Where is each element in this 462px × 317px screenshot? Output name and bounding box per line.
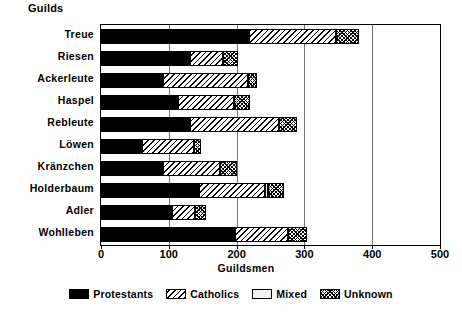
x-tick-label: 400: [363, 248, 381, 260]
legend-label: Catholics: [190, 288, 239, 300]
y-axis-label: Haspel: [0, 94, 94, 106]
bar-segment-catholics: [249, 29, 336, 44]
bar-segment-unknown: [248, 73, 257, 88]
bar-segment-unknown: [336, 29, 360, 44]
bar-row: [101, 29, 359, 44]
bar-row: [101, 205, 206, 220]
bar-row: [101, 227, 307, 242]
y-axis-label: Löwen: [0, 138, 94, 150]
bar-segment-protestants: [101, 73, 163, 88]
legend-item: Catholics: [166, 288, 239, 300]
chart-title: Guilds: [28, 2, 63, 14]
x-tick-label: 100: [160, 248, 178, 260]
solid-black-swatch: [69, 289, 89, 299]
light-solid-swatch: [252, 289, 272, 299]
legend-item: Protestants: [69, 288, 153, 300]
bar-segment-unknown: [194, 139, 201, 154]
bar-segment-catholics: [190, 51, 223, 66]
bar-segment-unknown: [279, 117, 297, 132]
y-axis-category-labels: TreueRiesenAckerleuteHaspelRebleuteLöwen…: [0, 24, 94, 246]
bar-row: [101, 139, 201, 154]
bar-segment-catholics: [163, 73, 248, 88]
bar-segment-catholics: [190, 117, 279, 132]
bar-segment-protestants: [101, 205, 172, 220]
x-axis-tick-labels: 0100200300400500: [0, 248, 462, 262]
bar-segment-unknown: [195, 205, 206, 220]
bar-segment-catholics: [142, 139, 194, 154]
bar-segment-protestants: [101, 51, 190, 66]
y-axis-label: Treue: [0, 28, 94, 40]
bar-segment-catholics: [199, 183, 265, 198]
bar-row: [101, 183, 284, 198]
legend-label: Protestants: [93, 288, 153, 300]
diagonal-hatch-swatch: [166, 289, 186, 299]
y-axis-label: Wohlleben: [0, 226, 94, 238]
bar-segment-protestants: [101, 117, 190, 132]
bar-row: [101, 95, 250, 110]
bar-segment-protestants: [101, 183, 199, 198]
cross-hatch-swatch: [320, 289, 340, 299]
bar-segment-catholics: [235, 227, 288, 242]
y-axis-label: Riesen: [0, 50, 94, 62]
legend-label: Mixed: [276, 288, 307, 300]
x-tick-label: 200: [227, 248, 245, 260]
bar-segment-unknown: [234, 95, 250, 110]
bar-row: [101, 73, 257, 88]
y-axis-label: Kränzchen: [0, 160, 94, 172]
chart-legend: ProtestantsCatholicsMixedUnknown: [0, 288, 462, 300]
x-tick-label: 0: [98, 248, 104, 260]
bar-segment-unknown: [223, 51, 238, 66]
y-axis-label: Rebleute: [0, 116, 94, 128]
x-tick-label: 500: [431, 248, 449, 260]
bar-segment-unknown: [288, 227, 307, 242]
y-axis-label: Adler: [0, 204, 94, 216]
bar-segment-protestants: [101, 95, 178, 110]
bar-segment-protestants: [101, 139, 142, 154]
legend-label: Unknown: [344, 288, 393, 300]
x-tick-label: 300: [295, 248, 313, 260]
legend-item: Mixed: [252, 288, 307, 300]
x-axis-title-text: Guildsmen: [218, 262, 275, 274]
bar-row: [101, 51, 238, 66]
y-axis-label: Holderbaum: [0, 182, 94, 194]
bar-row: [101, 161, 237, 176]
bar-segment-catholics: [178, 95, 234, 110]
bar-segment-catholics: [172, 205, 196, 220]
stacked-bar-chart: Guilds TreueRiesenAckerleuteHaspelRebleu…: [0, 0, 462, 317]
legend-item: Unknown: [320, 288, 393, 300]
x-axis-title: Guildsmen: [0, 262, 462, 274]
bar-segment-unknown: [268, 183, 284, 198]
bar-segment-protestants: [101, 161, 163, 176]
bar-segment-unknown: [220, 161, 237, 176]
bar-segment-protestants: [101, 29, 249, 44]
y-axis-label: Ackerleute: [0, 72, 94, 84]
bar-row: [101, 117, 297, 132]
bar-segment-catholics: [163, 161, 221, 176]
bar-segment-protestants: [101, 227, 235, 242]
bar-series-container: [101, 25, 440, 245]
